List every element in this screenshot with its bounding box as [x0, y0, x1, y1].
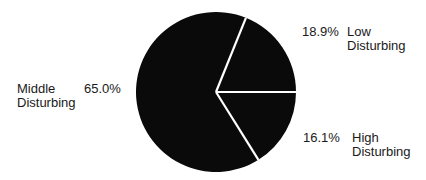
- middle-name-label: Middle Disturbing: [17, 82, 76, 110]
- low-name-line2: Disturbing: [347, 39, 406, 53]
- low-name-label: Low Disturbing: [347, 25, 406, 53]
- low-name-line1: Low: [347, 25, 406, 39]
- middle-name-line1: Middle: [17, 82, 76, 96]
- middle-name-line2: Disturbing: [17, 96, 76, 110]
- high-pct-label: 16.1%: [303, 131, 340, 145]
- middle-pct-label: 65.0%: [84, 82, 121, 96]
- low-pct-label: 18.9%: [302, 25, 339, 39]
- high-name-line2: Disturbing: [352, 145, 411, 159]
- high-name-label: High Disturbing: [352, 131, 411, 159]
- high-name-line1: High: [352, 131, 411, 145]
